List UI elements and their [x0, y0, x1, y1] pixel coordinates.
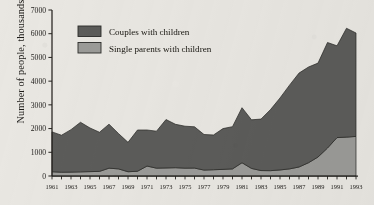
y-tick-label: 6000	[31, 29, 46, 38]
y-tick-label: 0	[42, 172, 46, 181]
x-tick-label: 1987	[293, 183, 307, 190]
x-tick-label: 1985	[274, 183, 287, 190]
y-tick-label: 7000	[31, 6, 46, 15]
x-tick-label: 1977	[198, 183, 212, 190]
x-tick-label: 1975	[179, 183, 192, 190]
legend-swatch	[78, 26, 101, 37]
x-tick-label: 1973	[160, 183, 173, 190]
chart-root: Number of people, thousands 010002000300…	[0, 0, 374, 205]
x-tick-label: 1983	[255, 183, 268, 190]
x-tick-label: 1989	[312, 183, 325, 190]
y-tick-label: 5000	[31, 53, 46, 62]
y-tick-labels: 01000200030004000500060007000	[31, 6, 46, 181]
chart-legend: Couples with childrenSingle parents with…	[78, 26, 212, 54]
x-tick-label: 1981	[236, 183, 249, 190]
area-chart-plot: 01000200030004000500060007000 1961196319…	[0, 0, 374, 205]
legend-swatch	[78, 43, 101, 54]
legend-label: Couples with children	[109, 27, 190, 37]
x-tick-label: 1961	[46, 183, 59, 190]
x-tick-label: 1965	[84, 183, 97, 190]
x-tick-label: 1971	[141, 183, 154, 190]
y-tick-label: 1000	[31, 148, 46, 157]
x-tick-label: 1967	[103, 183, 117, 190]
x-tick-label: 1963	[65, 183, 78, 190]
y-tick-label: 2000	[31, 124, 46, 133]
legend-label: Single parents with children	[109, 44, 212, 54]
y-tick-label: 3000	[31, 101, 46, 110]
x-tick-label: 1979	[217, 183, 230, 190]
x-tick-labels: 1961196319651967196919711973197519771979…	[46, 183, 363, 190]
x-tick-label: 1991	[331, 183, 344, 190]
y-tick-label: 4000	[31, 77, 46, 86]
x-tick-label: 1969	[122, 183, 135, 190]
x-tick-label: 1993	[350, 183, 363, 190]
